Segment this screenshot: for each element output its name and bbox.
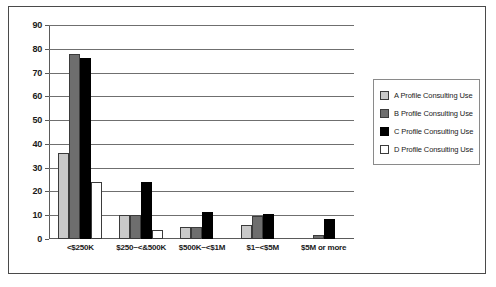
bar — [91, 182, 102, 239]
y-tick-mark — [45, 73, 49, 74]
x-axis-label: $500K~<$1M — [172, 243, 233, 252]
bar-group — [111, 25, 172, 239]
x-axis-label: $250~<&500K — [111, 243, 172, 252]
y-tick-mark — [45, 215, 49, 216]
legend: A Profile Consulting UseB Profile Consul… — [373, 79, 480, 165]
y-tick-mark — [45, 168, 49, 169]
legend-swatch-icon — [380, 109, 389, 118]
bar — [263, 214, 274, 239]
bar — [80, 58, 91, 239]
bar — [241, 225, 252, 239]
y-tick-mark — [45, 96, 49, 97]
legend-label: D Profile Consulting Use — [394, 145, 473, 154]
y-tick-label: 80 — [32, 44, 42, 54]
bar-group — [232, 25, 293, 239]
legend-item[interactable]: B Profile Consulting Use — [380, 104, 474, 122]
y-tick-label: 30 — [32, 163, 42, 173]
legend-item[interactable]: A Profile Consulting Use — [380, 86, 474, 104]
bar — [141, 182, 152, 239]
bar — [58, 153, 69, 239]
legend-label: A Profile Consulting Use — [394, 91, 472, 100]
y-tick-label: 60 — [32, 91, 42, 101]
y-tick-mark — [45, 25, 49, 26]
y-tick-label: 70 — [32, 68, 42, 78]
y-tick-label: 50 — [32, 115, 42, 125]
bar — [252, 216, 263, 239]
plot-area: 0102030405060708090 — [49, 25, 354, 239]
legend-swatch-icon — [380, 145, 389, 154]
bar-groups — [50, 25, 354, 239]
legend-label: B Profile Consulting Use — [394, 109, 473, 118]
bar — [69, 54, 80, 239]
y-tick-label: 20 — [32, 186, 42, 196]
bar-group — [172, 25, 233, 239]
bar-group — [293, 25, 354, 239]
y-tick-mark — [45, 144, 49, 145]
y-tick-mark — [45, 49, 49, 50]
bar — [191, 227, 202, 239]
x-axis-label: $1~<$5M — [232, 243, 293, 252]
legend-swatch-icon — [380, 127, 389, 136]
bar — [152, 230, 163, 240]
bar — [324, 219, 335, 239]
y-tick-mark — [45, 191, 49, 192]
legend-swatch-icon — [380, 91, 389, 100]
x-axis-labels: <$250K$250~<&500K$500K~<$1M$1~<$5M$5M or… — [50, 243, 354, 252]
y-tick-label: 10 — [32, 210, 42, 220]
x-axis-label: $5M or more — [293, 243, 354, 252]
bar — [180, 227, 191, 239]
bar — [130, 215, 141, 239]
x-axis-label: <$250K — [50, 243, 111, 252]
y-tick-label: 90 — [32, 20, 42, 30]
chart-frame: 0102030405060708090 <$250K$250~<&500K$50… — [8, 6, 486, 274]
y-tick-mark — [45, 120, 49, 121]
bar — [202, 212, 213, 239]
bar-group — [50, 25, 111, 239]
y-tick-label: 40 — [32, 139, 42, 149]
bar — [119, 215, 130, 239]
bar — [313, 235, 324, 239]
legend-item[interactable]: C Profile Consulting Use — [380, 122, 474, 140]
legend-item[interactable]: D Profile Consulting Use — [380, 140, 474, 158]
legend-label: C Profile Consulting Use — [394, 127, 473, 136]
y-tick-label: 0 — [37, 234, 42, 244]
y-tick-mark — [45, 239, 49, 240]
